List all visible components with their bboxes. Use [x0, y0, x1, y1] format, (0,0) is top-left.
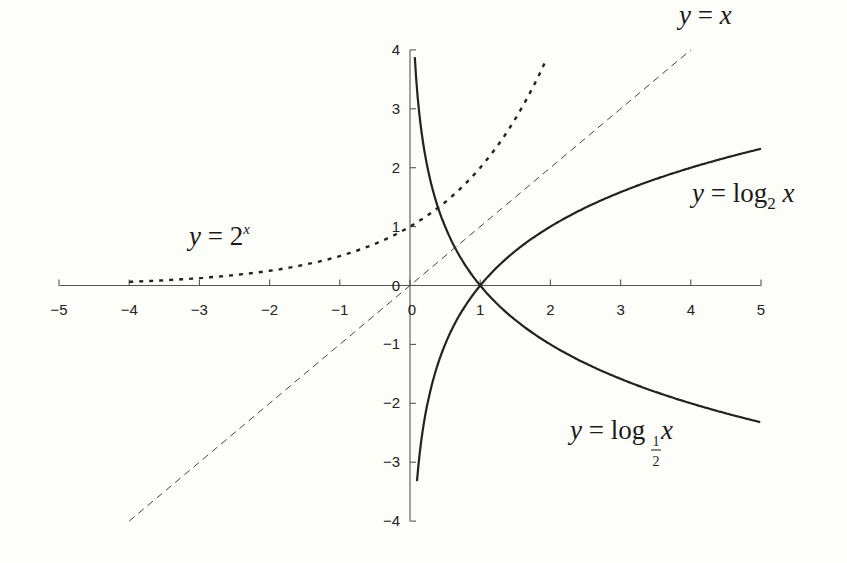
svg-text:y = log: y = log	[567, 415, 645, 445]
log-half-curve	[415, 57, 760, 422]
x-tick-label: 0	[408, 301, 416, 318]
x-tick-label: −5	[50, 301, 67, 318]
label-log-half: y = log x 1 2	[567, 415, 673, 469]
x-tick-label: 3	[616, 301, 624, 318]
y-tick-label: −4	[383, 512, 400, 529]
x-tick-label: 5	[757, 301, 765, 318]
x-tick-label: 1	[476, 301, 484, 318]
y-tick-label: −3	[383, 453, 400, 470]
label-identity: y = x	[676, 0, 732, 30]
svg-text:x: x	[660, 415, 673, 445]
x-tick-label: −4	[121, 301, 138, 318]
x-tick-label: −2	[261, 301, 278, 318]
function-graph: −5−4−3−2−1012345−4−3−2−101234 y = 2x y =…	[0, 0, 847, 563]
svg-text:2: 2	[653, 454, 660, 469]
svg-text:1: 1	[653, 434, 660, 449]
y-tick-label: −2	[383, 394, 400, 411]
label-exponential: y = 2x	[186, 221, 250, 251]
y-tick-label: 0	[392, 277, 400, 294]
label-log2: y = log2 x	[689, 178, 794, 213]
y-tick-label: 4	[392, 41, 400, 58]
y-tick-label: 2	[392, 159, 400, 176]
y-tick-label: −1	[383, 335, 400, 352]
x-tick-label: −1	[331, 301, 348, 318]
y-tick-label: 1	[392, 218, 400, 235]
y-tick-label: 3	[392, 100, 400, 117]
x-tick-label: 4	[687, 301, 695, 318]
x-tick-label: −3	[191, 301, 208, 318]
x-tick-label: 2	[546, 301, 554, 318]
